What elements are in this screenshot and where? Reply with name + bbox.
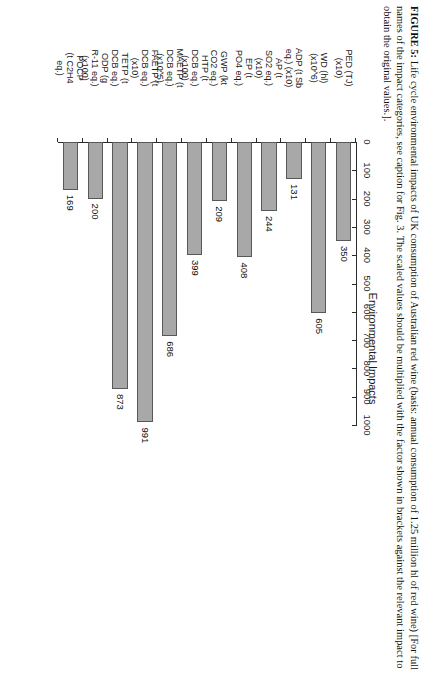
category-axis-tick xyxy=(82,138,83,142)
bar xyxy=(88,142,103,199)
category-label: ODP (gR-11 eq.)(x100) xyxy=(83,0,108,136)
bar-chart: 01002003004005006007008009001000 PED (TJ… xyxy=(5,0,357,697)
category-label: WD (hl)(x10^6) xyxy=(306,0,331,136)
bar xyxy=(311,142,326,313)
bar-value-label: 873 xyxy=(115,389,126,410)
category-label: GWP (ktCO2 eq.) xyxy=(207,0,232,136)
bar-row: 244 xyxy=(261,142,276,425)
category-label: ADP (t Sbeq.) (x10) xyxy=(282,0,307,136)
bar-value-label: 131 xyxy=(288,179,299,200)
category-axis-tick xyxy=(281,138,282,142)
bar xyxy=(212,142,227,201)
category-label: POCP(t C2H4eq.) xyxy=(58,0,83,136)
bar-row: 131 xyxy=(286,142,301,425)
bar-row: 209 xyxy=(212,142,227,425)
value-axis-title: Environmental Impacts xyxy=(367,0,379,697)
category-label: PED (TJ)(x10) xyxy=(331,0,356,136)
bar xyxy=(261,142,276,211)
category-label-line: (t C2H4 xyxy=(65,52,75,83)
category-axis-tick xyxy=(57,138,58,142)
category-axis-tick xyxy=(107,138,108,142)
category-label-line: R-11 eq.) xyxy=(90,50,100,87)
bar xyxy=(286,142,301,179)
category-label-line: DCB eq.) xyxy=(110,49,120,86)
category-label-line: DCB eq.) xyxy=(165,49,175,86)
value-axis-tick-label: 700 xyxy=(362,332,373,348)
category-label-line: ADP (t Sb xyxy=(294,48,304,88)
category-axis-tick xyxy=(156,138,157,142)
category-axis-tick xyxy=(231,138,232,142)
category-label-line: SO2 eq.) xyxy=(264,50,274,86)
bar xyxy=(63,142,78,190)
category-label-line: eq.) xyxy=(55,60,65,76)
category-label-line: GWP (kt xyxy=(219,51,229,85)
figure-caption-text: Life cycle environmental impacts of UK c… xyxy=(382,6,420,670)
category-axis-labels: PED (TJ)(x10)WD (hl)(x10^6)ADP (t Sbeq.)… xyxy=(58,0,356,138)
bar-value-label: 200 xyxy=(90,199,101,220)
value-axis-tick-label: 300 xyxy=(362,219,373,235)
value-axis-tick-label: 800 xyxy=(362,360,373,376)
category-label-line: FAETP (t xyxy=(150,50,160,86)
bar-row: 399 xyxy=(187,142,202,425)
value-axis-tick-label: 600 xyxy=(362,304,373,320)
category-label: HTP (tDCB eq.)(x100) xyxy=(182,0,207,136)
category-label-line: eq.) (x10) xyxy=(284,49,294,88)
category-label: FAETP (tDCB eq.)(x10) xyxy=(133,0,158,136)
bar-row: 408 xyxy=(237,142,252,425)
bar-value-label: 244 xyxy=(264,211,275,232)
plot-area: Environmental Impacts 010020030040050060… xyxy=(0,0,379,697)
bar xyxy=(162,142,177,336)
category-label: MAETP (tDCB eq.)(x10^5) xyxy=(157,0,182,136)
category-label-line: PO4 eq.) xyxy=(234,50,244,86)
bar xyxy=(112,142,127,389)
category-label-line: CO2 eq.) xyxy=(209,50,219,87)
category-axis-tick xyxy=(355,138,356,142)
category-axis-tick xyxy=(305,138,306,142)
category-axis-tick xyxy=(181,138,182,142)
bar xyxy=(137,142,152,422)
category-label-line: (x10^6) xyxy=(309,53,319,83)
bar-value-label: 169 xyxy=(65,190,76,211)
bar-value-label: 605 xyxy=(313,313,324,334)
category-label: AP (tSO2 eq.)(x10) xyxy=(257,0,282,136)
category-label-line: AP (t xyxy=(274,58,284,78)
figure-caption: FIGURE 5: Life cycle environmental impac… xyxy=(380,6,421,692)
value-axis-tick-label: 100 xyxy=(362,162,373,178)
category-axis-tick xyxy=(256,138,257,142)
bar-value-label: 991 xyxy=(139,422,150,443)
bar-row: 686 xyxy=(162,142,177,425)
category-label-line: ODP (g xyxy=(100,53,110,83)
category-axis-tick xyxy=(330,138,331,142)
bar-row: 605 xyxy=(311,142,326,425)
bar-row: 991 xyxy=(137,142,152,425)
value-axis-tick-label: 1000 xyxy=(362,414,373,435)
figure-caption-label: FIGURE 5: xyxy=(409,6,420,58)
category-label-line: WD (hl) xyxy=(319,53,329,84)
category-label-line: HTP (t xyxy=(200,55,210,81)
value-axis-tick-label: 500 xyxy=(362,276,373,292)
bar-row: 169 xyxy=(63,142,78,425)
bar xyxy=(336,142,351,241)
value-axis-tick-label: 900 xyxy=(362,389,373,405)
bar-row: 873 xyxy=(112,142,127,425)
category-axis-tick xyxy=(206,138,207,142)
category-label-line: DCB eq.) xyxy=(140,49,150,86)
bar-row: 350 xyxy=(336,142,351,425)
category-label: TETP (tDCB eq.) xyxy=(108,0,133,136)
category-label-line: TETP (t xyxy=(120,53,130,84)
bar xyxy=(237,142,252,257)
category-label-line: (x10) xyxy=(334,58,344,79)
rotated-figure-container: FIGURE 5: Life cycle environmental impac… xyxy=(0,0,425,697)
bar-value-label: 399 xyxy=(189,255,200,276)
value-axis-tick-label: 200 xyxy=(362,191,373,207)
category-label-line: PED (TJ) xyxy=(344,50,354,87)
value-axis-tick-label: 0 xyxy=(362,139,373,144)
bar-value-label: 350 xyxy=(338,241,349,262)
bar xyxy=(187,142,202,255)
category-label-line: POCP xyxy=(75,55,85,81)
category-label: EP (tPO4 eq.) xyxy=(232,0,257,136)
bar-rows: 350605131244408209399686991873200169 xyxy=(58,142,356,425)
bar-row: 200 xyxy=(88,142,103,425)
bar-value-label: 686 xyxy=(164,336,175,357)
category-axis-tick xyxy=(132,138,133,142)
